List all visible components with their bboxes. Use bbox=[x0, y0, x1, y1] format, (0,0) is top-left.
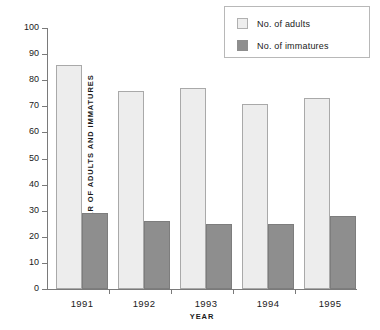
bar-group: 1993 bbox=[180, 28, 232, 289]
y-axis-tick-label: 0 bbox=[34, 283, 39, 294]
y-axis-tick-label: 60 bbox=[29, 126, 39, 137]
x-axis-tick-mark bbox=[171, 289, 172, 294]
x-axis-tick-label: 1991 bbox=[56, 298, 108, 309]
y-axis-tick-label: 70 bbox=[29, 100, 39, 111]
legend-item-label: No. of adults bbox=[257, 19, 310, 29]
y-axis-tick-mark bbox=[42, 80, 47, 81]
bar-adults bbox=[304, 98, 330, 289]
y-axis-tick-label: 80 bbox=[29, 74, 39, 85]
y-axis-tick-mark bbox=[42, 106, 47, 107]
bar-adults bbox=[118, 91, 144, 289]
y-axis-tick-mark bbox=[42, 263, 47, 264]
y-axis-tick-mark bbox=[42, 54, 47, 55]
y-axis-tick-label: 40 bbox=[29, 179, 39, 190]
bar-adults bbox=[180, 88, 206, 289]
bar-group: 1992 bbox=[118, 28, 170, 289]
y-axis-tick-mark bbox=[42, 211, 47, 212]
y-axis-tick-mark bbox=[42, 159, 47, 160]
y-axis-tick-mark bbox=[42, 289, 47, 290]
y-axis-tick-mark bbox=[42, 237, 47, 238]
y-axis-tick-label: 50 bbox=[29, 153, 39, 164]
x-axis-tick-mark bbox=[233, 289, 234, 294]
x-axis-tick-label: 1994 bbox=[242, 298, 294, 309]
bar-immatures bbox=[268, 224, 294, 289]
bar-adults bbox=[56, 65, 82, 289]
bar-adults bbox=[242, 104, 268, 289]
bar-immatures bbox=[330, 216, 356, 289]
bar-immatures bbox=[82, 213, 108, 289]
x-axis-tick-label: 1992 bbox=[118, 298, 170, 309]
y-axis-tick-mark bbox=[42, 185, 47, 186]
y-axis-line bbox=[47, 28, 48, 290]
y-axis-tick-label: 30 bbox=[29, 205, 39, 216]
bar-group: 1995 bbox=[304, 28, 356, 289]
bar-group: 1994 bbox=[242, 28, 294, 289]
plot-area: 0102030405060708090100 19911992199319941… bbox=[47, 28, 357, 290]
y-axis-tick-label: 90 bbox=[29, 48, 39, 59]
y-axis-tick-label: 10 bbox=[29, 257, 39, 268]
y-axis-tick-mark bbox=[42, 132, 47, 133]
x-axis-tick-mark bbox=[109, 289, 110, 294]
y-axis-title-wrap: NUMBER OF ADULTS AND IMMATURES bbox=[0, 28, 22, 290]
bar-immatures bbox=[206, 224, 232, 289]
bar-group: 1991 bbox=[56, 28, 108, 289]
x-axis-title: YEAR bbox=[47, 312, 357, 321]
y-axis-tick-mark bbox=[42, 28, 47, 29]
y-axis-tick-label: 20 bbox=[29, 231, 39, 242]
x-axis-line bbox=[47, 289, 357, 290]
x-axis-tick-mark bbox=[295, 289, 296, 294]
y-axis-tick-label: 100 bbox=[24, 22, 39, 33]
bar-immatures bbox=[144, 221, 170, 289]
x-axis-tick-label: 1993 bbox=[180, 298, 232, 309]
x-axis-tick-label: 1995 bbox=[304, 298, 356, 309]
